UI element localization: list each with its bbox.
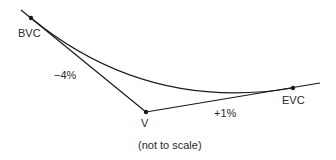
v-point xyxy=(144,110,148,114)
evc-point xyxy=(291,86,295,90)
bvc-label: BVC xyxy=(18,28,41,39)
incoming-grade-label: −4% xyxy=(54,70,76,81)
vertical-curve-path xyxy=(31,18,293,93)
vertical-curve-diagram xyxy=(0,0,336,160)
not-to-scale-caption: (not to scale) xyxy=(138,140,202,151)
v-label: V xyxy=(141,118,148,129)
bvc-point xyxy=(29,16,33,20)
evc-label: EVC xyxy=(282,95,305,106)
outgoing-grade-label: +1% xyxy=(214,108,236,119)
